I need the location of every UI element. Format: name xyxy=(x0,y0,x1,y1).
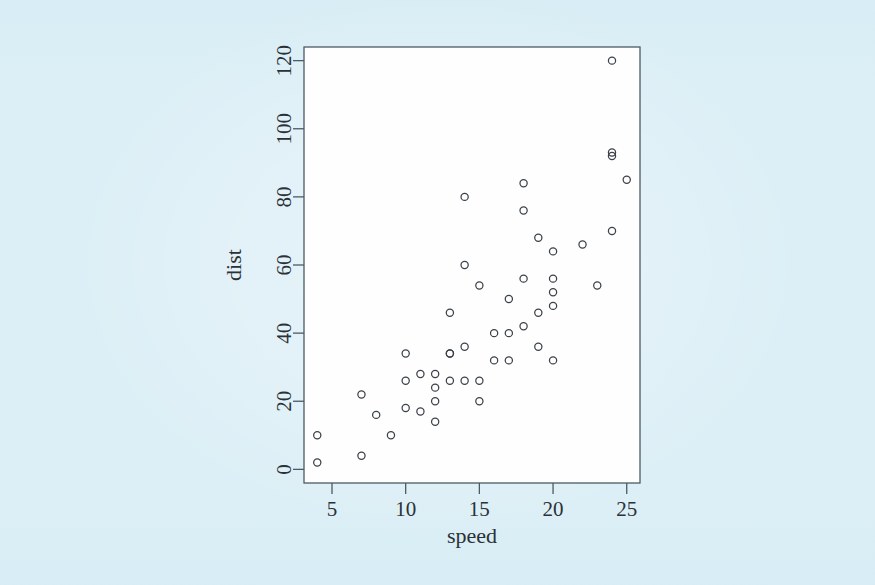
x-tick-label: 25 xyxy=(616,497,637,521)
x-tick-label: 5 xyxy=(327,497,338,521)
y-tick-label: 0 xyxy=(272,464,296,475)
x-axis-tick-labels: 510152025 xyxy=(327,497,637,521)
y-tick-label: 40 xyxy=(272,323,296,344)
chart-canvas: 020406080100120 510152025 speed dist xyxy=(0,0,875,585)
figure-page: 020406080100120 510152025 speed dist xyxy=(0,0,875,585)
plot-panel-background xyxy=(304,47,640,483)
y-axis-title: dist xyxy=(221,249,246,281)
x-tick-label: 20 xyxy=(543,497,564,521)
y-tick-label: 120 xyxy=(272,45,296,77)
y-axis-tick-labels: 020406080100120 xyxy=(272,45,296,475)
y-tick-label: 20 xyxy=(272,391,296,412)
x-tick-label: 10 xyxy=(395,497,416,521)
x-tick-label: 15 xyxy=(469,497,490,521)
scatter-plot-figure: 020406080100120 510152025 speed dist xyxy=(0,0,875,585)
x-axis-title: speed xyxy=(447,523,497,548)
y-tick-label: 80 xyxy=(272,186,296,207)
y-tick-label: 60 xyxy=(272,255,296,276)
x-axis-tick-marks xyxy=(332,483,627,494)
y-tick-label: 100 xyxy=(272,113,296,145)
